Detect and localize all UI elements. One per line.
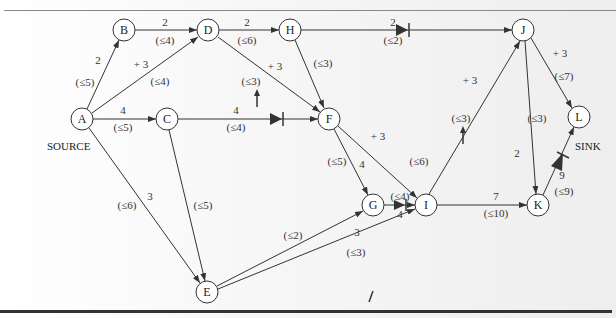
label-HJ-capacity: (≤2) xyxy=(384,34,403,47)
label-EI-flow: 3 xyxy=(354,226,360,238)
label-AC-flow: 4 xyxy=(120,104,126,116)
node-F-label: F xyxy=(326,112,333,126)
label-CE-capacity: (≤5) xyxy=(194,199,213,212)
node-G-label: G xyxy=(369,198,378,212)
edge-E-G xyxy=(217,211,363,286)
node-J-label: J xyxy=(521,23,526,37)
label-KL-capacity: (≤9) xyxy=(555,185,574,198)
node-I-label: I xyxy=(424,198,428,212)
label-EI-capacity: (≤3) xyxy=(347,246,366,259)
label-AD-flow: + 3 xyxy=(134,58,149,70)
label-IK-flow: 7 xyxy=(493,190,499,202)
node-H-label: H xyxy=(286,23,295,37)
label-FI-flow: + 3 xyxy=(371,130,386,142)
label-FG-capacity: (≤5) xyxy=(328,155,347,168)
label-CF-flow: 4 xyxy=(233,104,239,116)
label-JK-capacity: (≤3) xyxy=(528,112,547,125)
edge-I-J xyxy=(429,41,520,194)
node-E-label: E xyxy=(203,285,210,299)
label-DH-flow: 2 xyxy=(244,16,250,28)
label-BD-capacity: (≤4) xyxy=(156,34,175,47)
label-FG-flow: 4 xyxy=(359,158,365,170)
node-L-label: L xyxy=(575,110,582,124)
node-D: D xyxy=(197,19,219,41)
edge-D-F xyxy=(218,37,320,112)
edge-A-D xyxy=(92,37,198,113)
label-EG-capacity: (≤2) xyxy=(284,229,303,242)
edge-labels: 2 (≤5) 2 (≤4) + 3 (≤4) 2 (≤6) + 3 (≤3) 2… xyxy=(76,16,574,259)
augment-arrow-D-F xyxy=(254,89,260,107)
node-L: L xyxy=(568,106,590,128)
node-K-label: K xyxy=(534,198,543,212)
label-GI-flow: 4 xyxy=(397,208,403,220)
node-D-label: D xyxy=(204,23,213,37)
label-BD-flow: 2 xyxy=(162,16,168,28)
flow-network-diagram: 2 (≤5) 2 (≤4) + 3 (≤4) 2 (≤6) + 3 (≤3) 2… xyxy=(0,0,616,318)
node-G: G xyxy=(362,194,384,216)
augment-arrows xyxy=(254,89,466,144)
node-B: B xyxy=(113,19,135,41)
label-AB-capacity: (≤5) xyxy=(76,76,95,89)
label-JL-flow: + 3 xyxy=(553,47,568,59)
label-AE-flow: 3 xyxy=(147,190,153,202)
label-AC-capacity: (≤5) xyxy=(114,121,133,134)
label-HJ-flow: 2 xyxy=(390,16,396,28)
label-DF-capacity: (≤3) xyxy=(242,75,261,88)
node-I: I xyxy=(415,194,437,216)
label-DF-flow: + 3 xyxy=(268,60,283,72)
label-IJ-capacity: (≤3) xyxy=(452,112,471,125)
sink-label: SINK xyxy=(575,140,601,152)
node-A-label: A xyxy=(78,112,87,126)
label-KL-flow: 9 xyxy=(559,169,565,181)
label-FI-capacity: (≤6) xyxy=(410,155,429,168)
label-JK-flow: 2 xyxy=(514,147,520,159)
node-E: E xyxy=(196,281,218,303)
node-A: A xyxy=(71,108,93,130)
label-JL-capacity: (≤7) xyxy=(555,70,574,83)
node-F: F xyxy=(318,108,340,130)
saturated-marker-C-F xyxy=(270,112,283,126)
label-DH-capacity: (≤6) xyxy=(238,34,257,47)
node-J: J xyxy=(512,19,534,41)
saturated-marker-E-I xyxy=(369,291,373,302)
node-H: H xyxy=(279,19,301,41)
label-AD-capacity: (≤4) xyxy=(151,75,170,88)
label-IJ-flow: + 3 xyxy=(463,74,478,86)
label-GI-capacity: (≤4) xyxy=(391,190,410,203)
source-label: SOURCE xyxy=(47,140,91,152)
edge-H-F xyxy=(295,40,324,108)
node-K: K xyxy=(527,194,549,216)
node-C: C xyxy=(156,108,178,130)
label-IK-capacity: (≤10) xyxy=(484,207,509,220)
label-CF-capacity: (≤4) xyxy=(227,121,246,134)
node-C-label: C xyxy=(163,112,171,126)
edge-A-B xyxy=(87,40,119,109)
edge-E-I xyxy=(218,209,415,289)
label-AB-flow: 2 xyxy=(95,54,101,66)
label-HF-capacity: (≤3) xyxy=(314,57,333,70)
edge-A-E xyxy=(89,128,200,283)
label-AE-capacity: (≤6) xyxy=(118,199,137,212)
node-B-label: B xyxy=(120,23,128,37)
